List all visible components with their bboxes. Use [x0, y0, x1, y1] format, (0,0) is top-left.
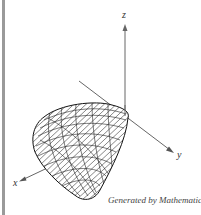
credit-text: Generated by Mathematica — [108, 195, 201, 205]
surface-mesh — [20, 95, 136, 205]
z-axis — [123, 24, 128, 112]
x-axis-label: x — [13, 178, 17, 188]
z-axis-label: z — [122, 10, 126, 20]
surface-plot — [0, 0, 201, 215]
y-axis-label: y — [177, 150, 181, 160]
